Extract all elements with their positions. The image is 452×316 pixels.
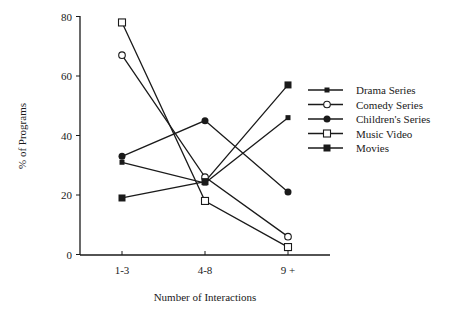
legend-label: Comedy Series <box>356 99 423 111</box>
marker-open-square <box>119 19 126 26</box>
y-axis-title: % of Programs <box>16 103 28 169</box>
y-tick-label: 20 <box>61 189 73 201</box>
marker-filled-circle <box>119 153 126 160</box>
x-axis-title: Number of Interactions <box>154 291 257 303</box>
marker-open-circle <box>119 52 126 59</box>
marker-filled-square <box>324 145 331 152</box>
legend-label: Drama Series <box>356 84 416 96</box>
line-chart: 020406080 1-34-89 + % of Programs Number… <box>0 0 452 316</box>
marker-open-square <box>285 244 292 251</box>
x-tick-label: 1-3 <box>115 264 130 276</box>
marker-filled-square <box>119 194 126 201</box>
series-markers <box>119 81 292 201</box>
y-tick-label: 60 <box>61 70 73 82</box>
legend-item: Movies <box>308 142 389 154</box>
series-line <box>122 118 288 183</box>
marker-filled-circle <box>324 116 331 123</box>
legend-item: Music Video <box>308 128 413 140</box>
marker-open-square <box>324 130 331 137</box>
series-drama-series <box>122 118 288 183</box>
series-music-video <box>122 22 288 247</box>
marker-filled-circle <box>285 189 292 196</box>
legend-label: Music Video <box>356 128 413 140</box>
y-tick-label: 80 <box>61 11 73 23</box>
marker-small-filled-square <box>120 160 125 165</box>
marker-filled-square <box>202 178 209 185</box>
marker-filled-circle <box>202 117 209 124</box>
legend-item: Drama Series <box>308 84 416 96</box>
marker-open-circle <box>324 101 331 108</box>
axes <box>80 16 330 255</box>
y-ticks: 020406080 <box>61 11 80 261</box>
legend-item: Children's Series <box>308 113 430 125</box>
x-tick-label: 4-8 <box>198 264 213 276</box>
legend-label: Movies <box>356 142 389 154</box>
series-line <box>122 22 288 247</box>
series-group <box>119 19 292 251</box>
legend: Drama SeriesComedy SeriesChildren's Seri… <box>308 84 430 154</box>
marker-open-circle <box>285 233 292 240</box>
marker-filled-square <box>285 81 292 88</box>
x-tick-label: 9 + <box>281 264 295 276</box>
y-tick-label: 0 <box>67 249 73 261</box>
legend-label: Children's Series <box>356 113 430 125</box>
y-tick-label: 40 <box>61 130 73 142</box>
marker-open-square <box>202 197 209 204</box>
legend-item: Comedy Series <box>308 99 423 111</box>
marker-small-filled-square <box>325 88 330 93</box>
marker-small-filled-square <box>286 115 291 120</box>
